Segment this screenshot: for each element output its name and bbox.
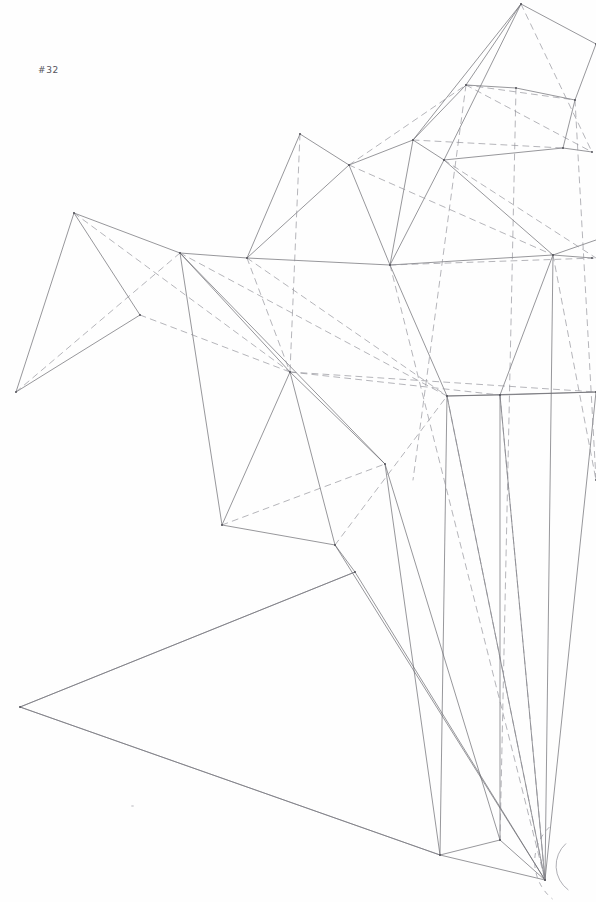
vertex-node: [591, 257, 593, 259]
vertex-node: [499, 839, 501, 841]
vertex-node: [515, 87, 517, 89]
vertex-node: [591, 151, 593, 153]
paper-background: [0, 0, 596, 902]
wireframe-canvas: [0, 0, 596, 902]
vertex-node: [520, 3, 522, 5]
vertex-node: [334, 544, 336, 546]
vertex-node: [246, 257, 248, 259]
vertex-node: [439, 854, 441, 856]
vertex-node: [443, 159, 445, 161]
drawing-plate: #32: [0, 0, 596, 902]
vertex-node: [412, 139, 414, 141]
paper-speck: [131, 805, 134, 807]
vertex-node: [73, 212, 75, 214]
vertex-node: [299, 133, 301, 135]
vertex-node: [15, 391, 17, 393]
vertex-node: [348, 164, 350, 166]
vertex-node: [544, 879, 546, 881]
vertex-node: [562, 147, 564, 149]
vertex-node: [221, 524, 223, 526]
vertex-node: [574, 99, 576, 101]
vertex-node: [179, 252, 181, 254]
plate-number-label: #32: [38, 65, 59, 75]
vertex-node: [465, 84, 467, 86]
vertex-node: [446, 395, 448, 397]
vertex-node: [552, 254, 554, 256]
vertex-node: [19, 706, 21, 708]
vertex-node: [389, 264, 391, 266]
vertex-node: [289, 371, 291, 373]
vertex-node: [499, 394, 501, 396]
vertex-node: [384, 463, 386, 465]
vertex-node: [354, 571, 356, 573]
vertex-node: [139, 314, 141, 316]
